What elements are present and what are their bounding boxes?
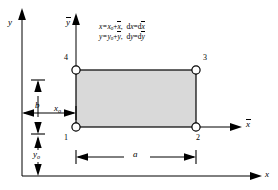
eq2-lhs: y=y [99,32,111,41]
equation-line-2: y=yo+y, dy=dy [99,32,145,42]
global-x-axis [22,172,262,180]
node-2-marker [192,123,200,131]
node-3-marker [192,66,200,74]
node-1-marker [72,123,80,131]
node-4-marker [72,66,80,74]
local-y-axis [72,13,80,70]
y-offset-subscript: o [37,154,40,160]
local-x-axis-label: x [246,120,250,129]
eq2-eq-d: =d [134,32,142,41]
eq1-eq-d: =d [134,22,142,31]
node-label-3: 3 [203,54,207,62]
dimension-x-offset-label: xo [54,104,61,114]
global-x-axis-label: x [265,170,269,179]
element-rectangle [76,70,196,127]
dimension-x-offset [22,106,76,120]
dimension-b-label: b [35,101,40,110]
local-x-axis-label-text: x [246,120,250,129]
global-y-axis [18,8,26,176]
node-label-2: 2 [196,134,200,142]
dimension-y-offset-label: yo [33,150,40,160]
eq2-dybar: y [142,32,145,42]
local-x-axis [196,123,242,131]
eq2-ybar: y [118,32,121,42]
node-label-1: 1 [64,134,68,142]
equation-line-1: x=xo+x, dx=dx [99,22,145,32]
global-y-axis-label: y [8,18,12,27]
figure-canvas: y x y x 4 3 1 2 b a xo yo x=xo+x, dx=dx … [0,0,278,190]
local-y-axis-label: y [66,18,70,27]
eq1-lhs: x=x [99,22,111,31]
node-label-4: 4 [64,54,68,62]
local-y-axis-label-text: y [66,18,70,27]
dimension-a-label: a [133,150,138,159]
equation-block: x=xo+x, dx=dx y=yo+y, dy=dy [99,22,145,43]
x-offset-subscript: o [58,108,61,114]
